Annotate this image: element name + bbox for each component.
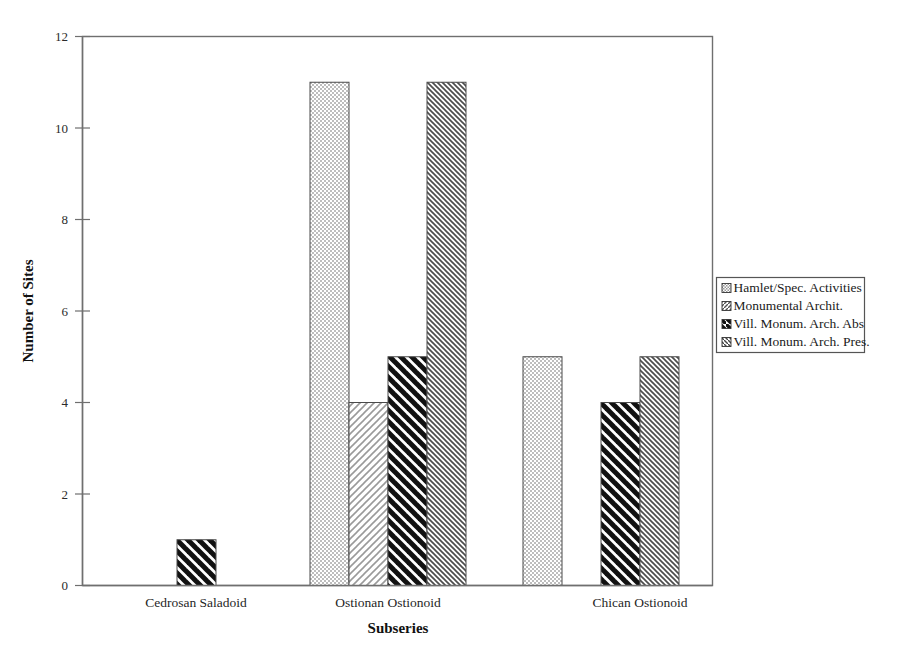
- y-axis: 0 2 4 6 8 10 12: [55, 29, 90, 593]
- legend-label: Monumental Archit.: [734, 298, 843, 313]
- legend-item-hamlet-spec-activities: Hamlet/Spec. Activities: [722, 280, 862, 295]
- legend-label: Vill. Monum. Arch. Abs: [734, 316, 864, 331]
- y-tick-label: 4: [62, 395, 69, 410]
- legend-swatch-icon: [722, 338, 731, 347]
- bar-vill-monum-arch-abs: [601, 403, 640, 586]
- x-category-label: Ostionan Ostionoid: [335, 595, 441, 610]
- legend-item-monumental-archit: Monumental Archit.: [722, 298, 843, 313]
- bar-vill-monum-arch-pres: [640, 357, 679, 586]
- bar-hamlet-spec-activities: [523, 357, 562, 586]
- bar-group-cedrosan-saladoid: [177, 540, 216, 586]
- x-category-label: Chican Ostionoid: [593, 595, 688, 610]
- bar-vill-monum-arch-pres: [427, 82, 466, 585]
- chart-canvas: 0 2 4 6 8 10 12 Number of Sites: [0, 0, 898, 659]
- legend-item-vill-monum-arch-pres: Vill. Monum. Arch. Pres.: [722, 334, 870, 349]
- y-tick-label: 10: [55, 121, 68, 136]
- y-tick-label: 2: [62, 487, 69, 502]
- x-category-label: Cedrosan Saladoid: [145, 595, 247, 610]
- y-tick-label: 0: [62, 578, 69, 593]
- legend-swatch-icon: [722, 284, 731, 293]
- bar-monumental-archit: [349, 403, 388, 586]
- bar-chart-figure: 0 2 4 6 8 10 12 Number of Sites: [0, 0, 898, 659]
- legend-label: Hamlet/Spec. Activities: [734, 280, 862, 295]
- legend-label: Vill. Monum. Arch. Pres.: [734, 334, 870, 349]
- legend-item-vill-monum-arch-abs: Vill. Monum. Arch. Abs: [722, 316, 864, 331]
- bar-vill-monum-arch-abs: [177, 540, 216, 586]
- bar-hamlet-spec-activities: [310, 82, 349, 585]
- bar-group-chican-ostionoid: [523, 357, 679, 586]
- y-tick-label: 12: [55, 29, 68, 44]
- legend-swatch-icon: [722, 302, 731, 311]
- legend-swatch-icon: [722, 320, 731, 329]
- bar-group-ostionan-ostionoid: [310, 82, 466, 585]
- y-tick-label: 6: [62, 304, 69, 319]
- y-tick-label: 8: [62, 212, 69, 227]
- x-axis-title: Subseries: [368, 620, 429, 636]
- y-axis-title: Number of Sites: [20, 259, 36, 362]
- chart-legend: Hamlet/Spec. Activities Monumental Archi…: [717, 278, 870, 353]
- bar-vill-monum-arch-abs: [388, 357, 427, 586]
